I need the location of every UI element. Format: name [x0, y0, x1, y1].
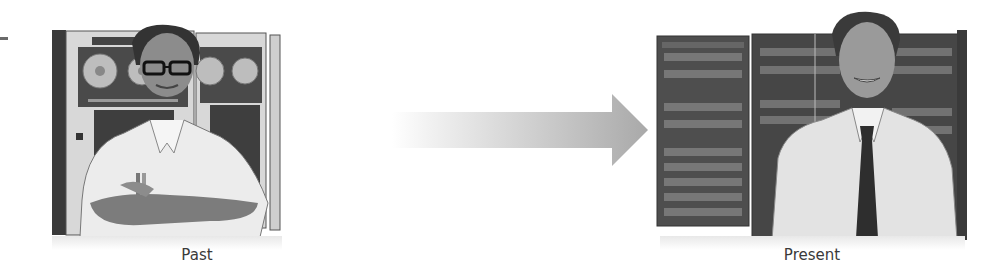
arrow-right-icon [392, 94, 652, 174]
server-admin-illustration [652, 8, 972, 238]
margin-tick-mark [0, 37, 8, 40]
present-label: Present [762, 246, 862, 264]
present-panel [652, 8, 972, 238]
mainframe-operator-illustration [50, 25, 280, 240]
past-label: Past [147, 246, 247, 264]
past-panel [50, 25, 280, 240]
